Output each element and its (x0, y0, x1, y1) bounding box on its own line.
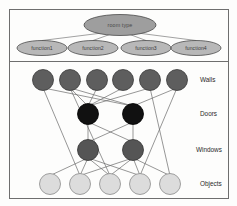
root-ellipse: room type (84, 15, 156, 36)
layer-label-objects: Objects (200, 180, 222, 188)
function-ellipse: function3 (121, 41, 171, 56)
layer-label-doors: Doors (200, 110, 217, 117)
ellipse-label: function4 (185, 45, 207, 51)
function-ellipse: function4 (171, 41, 221, 56)
node-walls (140, 70, 161, 91)
edge-walls-objects (70, 88, 110, 176)
diagram-canvas: room typefunction1function2function3func… (0, 0, 237, 206)
layer-label-walls: Walls (200, 76, 215, 83)
node-objects (100, 174, 121, 195)
node-walls (33, 70, 54, 91)
node-windows (78, 140, 99, 161)
node-objects (160, 174, 181, 195)
function-ellipse: function1 (17, 41, 67, 56)
figure-root: room typefunction1function2function3func… (0, 0, 237, 206)
edge-walls-objects (43, 88, 80, 176)
edge-windows-objects (50, 158, 88, 176)
ellipse-label: function2 (82, 45, 104, 51)
node-objects (70, 174, 91, 195)
outer-frame (10, 10, 229, 199)
node-doors (78, 104, 99, 125)
node-walls (167, 70, 188, 91)
node-walls (60, 70, 81, 91)
ellipse-label: function1 (31, 45, 53, 51)
network-panel-edges (43, 88, 177, 176)
node-doors (123, 104, 144, 125)
node-walls (87, 70, 108, 91)
ellipse-label: room type (108, 22, 133, 28)
edge-windows-objects (133, 158, 170, 176)
ellipse-label: function3 (135, 45, 157, 51)
function-panel-nodes: room typefunction1function2function3func… (17, 15, 221, 56)
function-ellipse: function2 (68, 41, 118, 56)
layer-labels: WallsDoorsWindowsObjects (196, 76, 222, 188)
node-objects (40, 174, 61, 195)
layer-label-windows: Windows (196, 146, 222, 153)
node-walls (113, 70, 134, 91)
node-windows (123, 140, 144, 161)
edge-walls-objects (150, 88, 170, 176)
node-objects (130, 174, 151, 195)
